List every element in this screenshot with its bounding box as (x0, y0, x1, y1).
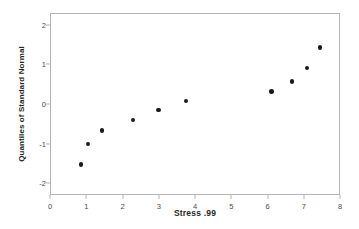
data-point (290, 79, 294, 83)
y-tick-label: -1 (39, 139, 46, 148)
scatter-points-layer (51, 14, 339, 194)
x-tick-mark (86, 195, 87, 199)
data-point (318, 45, 322, 49)
data-point (79, 162, 83, 166)
x-tick-mark (158, 195, 159, 199)
data-point (269, 89, 273, 93)
qq-plot-chart: Quantiles of Standard Normal 210-1-2 012… (0, 0, 359, 229)
y-tick-label: -2 (39, 179, 46, 188)
data-point (131, 118, 135, 122)
data-point (86, 142, 90, 146)
x-tick-mark (340, 195, 341, 199)
x-tick-mark (303, 195, 304, 199)
x-tick-mark (50, 195, 51, 199)
y-tick-label: 2 (42, 20, 46, 29)
y-tick-label: 1 (42, 60, 46, 69)
x-tick-mark (195, 195, 196, 199)
x-axis-title: Stress .99 (50, 208, 340, 218)
data-point (156, 108, 160, 112)
data-point (100, 128, 104, 132)
x-tick-mark (231, 195, 232, 199)
data-point (305, 66, 309, 70)
x-tick-mark (267, 195, 268, 199)
y-tick-label: 0 (42, 100, 46, 109)
x-tick-mark (122, 195, 123, 199)
data-point (184, 99, 188, 103)
plot-area (50, 13, 340, 195)
